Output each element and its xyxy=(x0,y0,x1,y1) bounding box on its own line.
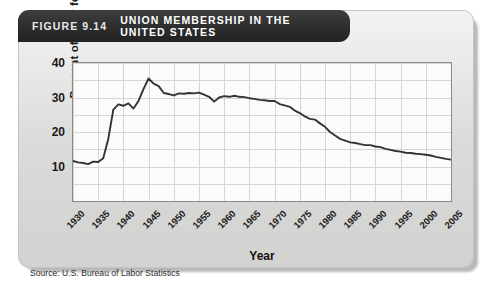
data-series-line xyxy=(73,79,451,165)
x-axis-label: Year xyxy=(72,249,452,263)
line-chart-svg xyxy=(73,63,451,201)
source-note: Source: U.S. Bureau of Labor Statistics xyxy=(30,268,180,278)
grid-lines-horizontal xyxy=(73,64,451,202)
figure-container: FIGURE 9.14 UNION MEMBERSHIP IN THE UNIT… xyxy=(0,0,490,287)
plot-region xyxy=(72,62,452,202)
chart-area: Percent of labor force 10203040 19301935… xyxy=(72,62,452,202)
page-title: UNION MEMBERSHIP IN THE UNITED STATES xyxy=(120,14,335,38)
figure-number-label: FIGURE 9.14 xyxy=(32,20,107,32)
y-axis-tick-40: 40 xyxy=(52,56,65,70)
y-axis-tick-10: 10 xyxy=(52,160,65,174)
y-axis-tick-20: 20 xyxy=(52,125,65,139)
figure-title-bar: FIGURE 9.14 UNION MEMBERSHIP IN THE UNIT… xyxy=(18,10,350,42)
y-axis-tick-30: 30 xyxy=(52,91,65,105)
